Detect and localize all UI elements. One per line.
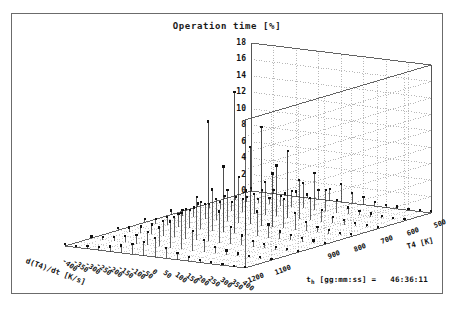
- z-axis-tick-label: 16: [230, 54, 246, 63]
- z-axis-tick-label: 14: [230, 71, 246, 80]
- z-axis-tick-label: 18: [230, 38, 246, 47]
- z-axis-tick-label: 12: [230, 87, 246, 96]
- status-units: [gg:mm:ss] =: [315, 275, 376, 284]
- status-value: 46:36:11: [390, 275, 428, 284]
- chart-plot-area: [12, 14, 444, 295]
- z-axis-tick-label: 6: [230, 137, 246, 146]
- z-axis-tick-label: 2: [230, 170, 246, 179]
- z-axis-tick-label: 4: [230, 153, 246, 162]
- z-axis-tick-label: 0: [230, 186, 246, 195]
- status-readout: th [gg:mm:ss] = 46:36:11: [306, 275, 428, 285]
- chart-window: Operation time [%] th [gg:mm:ss] = 46:36…: [11, 13, 443, 294]
- z-axis-tick-label: 10: [230, 104, 246, 113]
- z-axis-tick-label: 8: [230, 120, 246, 129]
